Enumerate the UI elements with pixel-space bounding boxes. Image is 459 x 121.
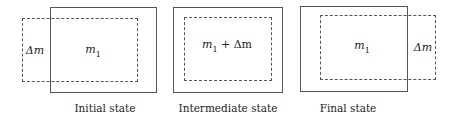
m1-sub: 1	[365, 46, 370, 55]
final-state-caption: Final state	[320, 102, 377, 114]
m1-sub: 1	[96, 50, 101, 59]
delta-m-label: Δm	[414, 41, 432, 54]
plus-delta-m: + Δm	[217, 38, 252, 51]
m1-label: m1	[354, 39, 370, 54]
m1-plus-delta-m-label: m1 + Δm	[202, 38, 252, 53]
m1-label: m1	[85, 43, 101, 58]
delta-m-label: Δm	[26, 44, 44, 57]
m1-var: m	[202, 38, 212, 51]
m1-var: m	[354, 39, 364, 52]
initial-state-caption: Initial state	[74, 102, 135, 114]
m1-var: m	[85, 43, 95, 56]
intermediate-state-caption: Intermediate state	[179, 102, 278, 114]
